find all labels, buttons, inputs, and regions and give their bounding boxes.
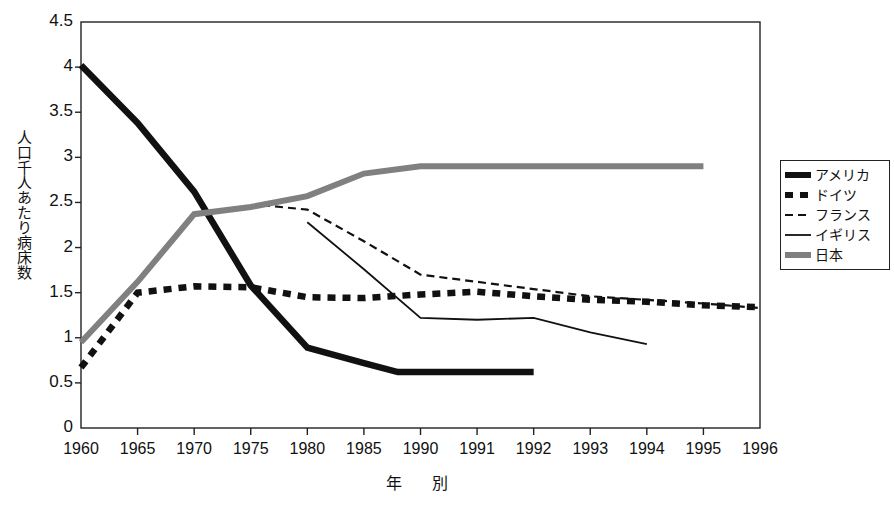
plot-area [0, 0, 894, 511]
x-tick-label: 1992 [506, 440, 562, 458]
legend-swatch-icon [784, 248, 812, 262]
x-tick-label: 1970 [166, 440, 222, 458]
y-tick-label: 4 [29, 56, 73, 76]
y-tick-label: 2 [29, 237, 73, 257]
chart-figure: 00.511.522.533.544.5 1960196519701975198… [0, 0, 894, 511]
legend-label: ドイツ [815, 188, 857, 202]
x-tick-label: 1993 [562, 440, 618, 458]
y-tick-label: 2.5 [29, 191, 73, 211]
legend-item-0: アメリカ [781, 165, 889, 185]
y-tick-label: 3.5 [29, 101, 73, 121]
x-axis-ticks [138, 428, 704, 435]
legend-item-3: イギリス [781, 225, 889, 245]
legend-swatch-icon [784, 168, 812, 182]
x-tick-label: 1960 [53, 440, 109, 458]
legend-swatch-icon [784, 188, 812, 202]
series-line-3 [307, 222, 647, 344]
y-tick-label: 0.5 [29, 372, 73, 392]
x-tick-label: 1980 [279, 440, 335, 458]
legend-label: イギリス [815, 228, 871, 242]
legend-label: アメリカ [815, 168, 870, 182]
x-tick-label: 1995 [675, 440, 731, 458]
series-line-4 [81, 166, 703, 342]
series-line-1 [81, 286, 760, 367]
y-tick-label: 1 [29, 327, 73, 347]
x-axis-title: 年 別 [330, 470, 510, 494]
y-axis-ticks [75, 67, 81, 383]
x-tick-label: 1985 [336, 440, 392, 458]
x-tick-label: 1975 [223, 440, 279, 458]
y-tick-label: 4.5 [29, 11, 73, 31]
legend-label: フランス [815, 208, 871, 222]
x-tick-label: 1990 [393, 440, 449, 458]
x-tick-label: 1996 [732, 440, 788, 458]
legend-swatch-icon [784, 208, 812, 222]
y-tick-label: 3 [29, 146, 73, 166]
x-tick-label: 1994 [619, 440, 675, 458]
legend-item-4: 日本 [781, 245, 889, 265]
legend-swatch-icon [784, 228, 812, 242]
y-axis-title: 人口千人あたり病床数 [6, 130, 32, 280]
legend-label: 日本 [815, 248, 843, 262]
y-tick-label: 0 [29, 417, 73, 437]
legend-item-2: フランス [781, 205, 889, 225]
legend: アメリカドイツフランスイギリス日本 [780, 160, 890, 270]
legend-item-1: ドイツ [781, 185, 889, 205]
series-line-0 [81, 65, 534, 372]
x-tick-label: 1991 [449, 440, 505, 458]
y-tick-label: 1.5 [29, 282, 73, 302]
x-tick-label: 1965 [110, 440, 166, 458]
series-lines [81, 65, 760, 372]
